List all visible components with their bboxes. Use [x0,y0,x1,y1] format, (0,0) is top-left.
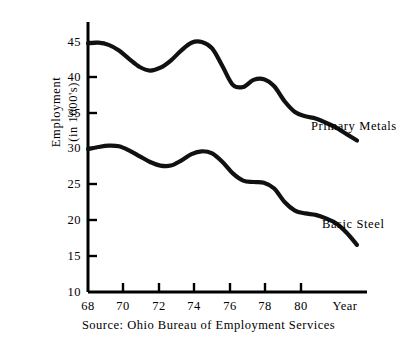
x-tick-label-80: 80 [294,299,308,313]
series-label-primary-metals: Primary Metals [311,119,397,133]
chart-svg: 45 40 35 30 25 20 15 10 68 70 72 74 76 7… [0,0,417,341]
series-label-basic-steel: Basic Steel [322,217,385,231]
y-tick-label-20: 20 [68,213,82,227]
chart-container: Employment (in 1000's) 45 40 35 30 25 20… [0,0,417,341]
x-tick-label-78: 78 [258,299,272,313]
y-axis-tick-labels: 45 40 35 30 25 20 15 10 [68,35,82,299]
x-axis-title: Year [332,299,357,313]
line-basic-steel [88,146,357,245]
x-tick-label-74: 74 [187,299,201,313]
y-tick-label-10: 10 [68,285,82,299]
y-tick-label-35: 35 [68,106,82,120]
x-tick-label-72: 72 [152,299,166,313]
y-tick-label-40: 40 [68,70,82,84]
y-tick-label-25: 25 [68,177,82,191]
x-tick-label-68: 68 [81,299,95,313]
y-tick-label-45: 45 [68,35,82,49]
x-axis-tick-labels: 68 70 72 74 76 78 80 Year [81,299,358,313]
y-tick-label-15: 15 [68,249,82,263]
source-note: Source: Ohio Bureau of Employment Servic… [0,318,417,333]
x-tick-label-76: 76 [223,299,237,313]
y-tick-label-30: 30 [68,141,82,155]
x-tick-label-70: 70 [116,299,130,313]
